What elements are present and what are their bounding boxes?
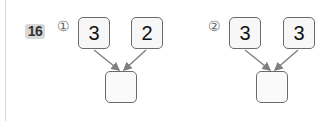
number-box: 3 (229, 17, 261, 49)
answer-box[interactable] (256, 71, 288, 103)
number-box: 3 (78, 17, 110, 49)
number-box: 2 (131, 17, 163, 49)
answer-box[interactable] (105, 71, 137, 103)
number-box: 3 (283, 17, 315, 49)
problem-label: ① (57, 18, 70, 34)
problem-label: ② (208, 18, 221, 34)
